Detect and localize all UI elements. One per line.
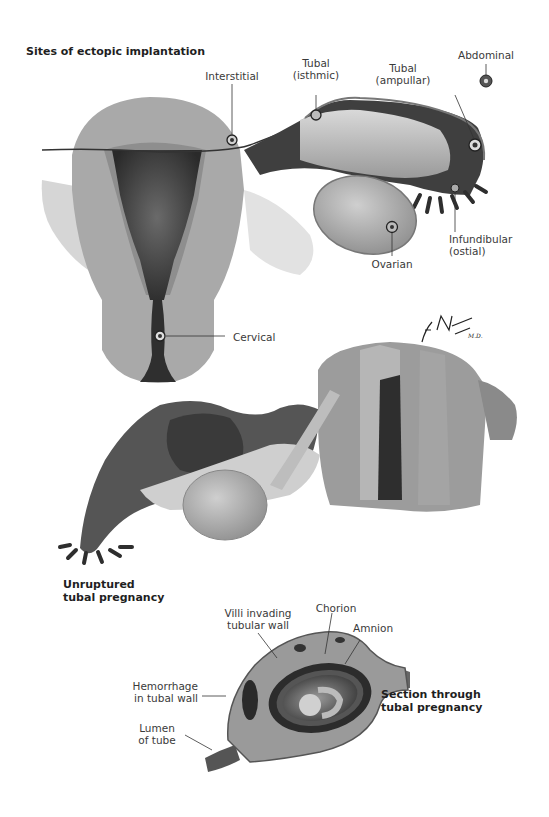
netter-signature: M.D. (422, 316, 483, 342)
label-hemorrhage-line1: Hemorrhage (122, 680, 198, 692)
label-amnion: Amnion (349, 622, 397, 634)
panel-title-unruptured-line2: tubal pregnancy (63, 592, 164, 605)
label-tubal-isthmic-line2: (isthmic) (290, 69, 342, 81)
label-villi: Villi invading tubular wall (220, 607, 296, 631)
label-tubal-isthmic: Tubal (isthmic) (290, 57, 342, 81)
label-tubal-ampullar: Tubal (ampullar) (372, 62, 434, 86)
label-tubal-ampullar-line1: Tubal (372, 62, 434, 74)
label-lumen: Lumen of tube (130, 722, 184, 746)
label-lumen-line1: Lumen (130, 722, 184, 734)
label-lumen-line2: of tube (130, 734, 184, 746)
label-hemorrhage-line2: in tubal wall (122, 692, 198, 704)
panel-title-section-line1: Section through (381, 689, 482, 702)
panel-title-unruptured: Unruptured tubal pregnancy (63, 579, 164, 604)
label-infundibular-line1: Infundibular (449, 233, 512, 245)
label-tubal-ampullar-line2: (ampullar) (372, 74, 434, 86)
label-infundibular: Infundibular (ostial) (449, 233, 512, 257)
tubal-section-drawing (205, 632, 410, 772)
label-chorion: Chorion (312, 602, 360, 614)
svg-text:M.D.: M.D. (467, 332, 483, 339)
label-ovarian: Ovarian (364, 258, 420, 270)
panel-title-unruptured-line1: Unruptured (63, 579, 164, 592)
label-abdominal: Abdominal (454, 49, 518, 61)
label-villi-line1: Villi invading (220, 607, 296, 619)
panel-title-sites: Sites of ectopic implantation (26, 46, 205, 59)
label-interstitial: Interstitial (198, 70, 266, 82)
label-infundibular-line2: (ostial) (449, 245, 512, 257)
label-tubal-isthmic-line1: Tubal (290, 57, 342, 69)
label-villi-line2: tubular wall (220, 619, 296, 631)
panel-title-section: Section through tubal pregnancy (381, 689, 482, 714)
panel-title-section-line2: tubal pregnancy (381, 702, 482, 715)
label-hemorrhage: Hemorrhage in tubal wall (122, 680, 198, 704)
label-cervical: Cervical (233, 331, 275, 343)
